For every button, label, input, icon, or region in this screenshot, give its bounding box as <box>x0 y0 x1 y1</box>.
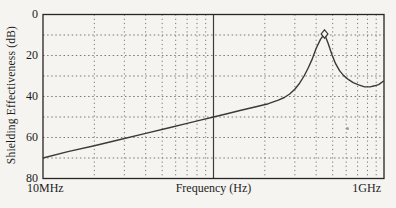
scan-speck <box>346 127 349 130</box>
y-tick-label: 60 <box>26 130 38 144</box>
x-axis-title: Frequency (Hz) <box>43 181 384 196</box>
y-tick-label: 0 <box>32 7 38 21</box>
y-tick-label: 20 <box>26 48 38 62</box>
shielding-effectiveness-chart: Shielding Effectiveness (dB) 020406080 1… <box>0 0 396 208</box>
plot-area: 020406080 <box>0 0 396 208</box>
x-axis-labels: 10MHz Frequency (Hz) 1GHz <box>0 181 396 197</box>
y-tick-label: 40 <box>26 89 38 103</box>
x-max-tick-label: 1GHz <box>352 181 381 196</box>
